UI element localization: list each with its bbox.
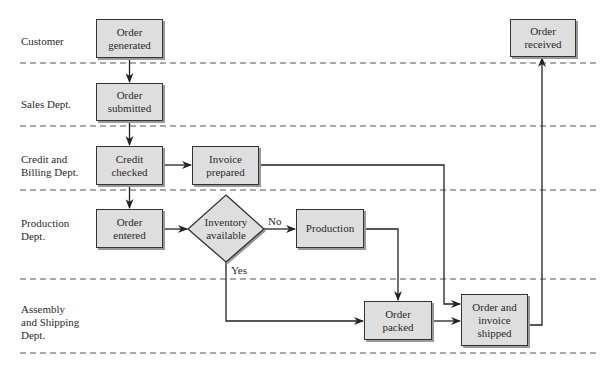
lane-label-assembly-shipping: Assemblyand ShippingDept. <box>21 303 79 342</box>
node-order-submitted: Ordersubmitted <box>96 83 163 121</box>
node-production: Production <box>296 209 364 248</box>
edge-label-no: No <box>268 215 281 227</box>
node-inventory-available-label: Inventoryavailable <box>196 216 256 242</box>
lane-label-customer: Customer <box>21 35 64 48</box>
node-order-generated: Ordergenerated <box>96 19 163 58</box>
edge-label-yes: Yes <box>231 264 247 276</box>
lane-label-production: ProductionDept. <box>21 217 69 243</box>
node-invoice-prepared: Invoiceprepared <box>192 146 259 185</box>
node-order-received: Orderreceived <box>510 19 576 57</box>
node-order-packed: Orderpacked <box>364 301 432 340</box>
lane-label-sales: Sales Dept. <box>21 98 71 111</box>
node-order-entered: Orderentered <box>96 209 163 248</box>
lane-label-credit-billing: Credit andBilling Dept. <box>21 153 78 179</box>
flow-arrows <box>130 58 543 325</box>
node-order-invoice-shipped: Order andinvoiceshipped <box>461 294 528 346</box>
node-credit-checked: Creditchecked <box>96 146 163 185</box>
